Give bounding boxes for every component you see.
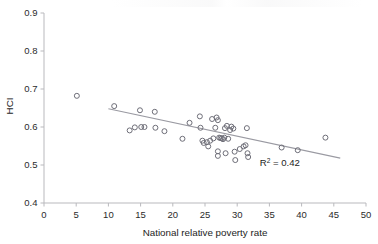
x-tick-label: 30: [232, 209, 243, 220]
data-point: [187, 120, 192, 125]
x-tick-label: 25: [200, 209, 211, 220]
data-point: [137, 108, 142, 113]
x-tick-label: 5: [74, 209, 79, 220]
x-axis-title: National relative poverty rate: [143, 227, 268, 238]
data-point: [112, 104, 117, 109]
x-tick-label: 50: [361, 209, 372, 220]
y-tick-labels: 0.40.50.60.70.80.9: [24, 7, 37, 208]
data-point: [180, 136, 185, 141]
y-tick-label: 0.6: [24, 121, 37, 132]
data-point: [74, 93, 79, 98]
data-point: [244, 126, 249, 131]
data-point: [197, 114, 202, 119]
x-tick-label: 35: [264, 209, 275, 220]
y-tick-label: 0.8: [24, 45, 37, 56]
x-tick-label: 0: [41, 209, 46, 220]
y-tick-label: 0.9: [24, 7, 37, 18]
data-point: [162, 129, 167, 134]
x-tick-labels: 05101520253035404550: [41, 209, 371, 220]
data-point: [127, 128, 132, 133]
data-point: [295, 148, 300, 153]
r-squared-annotation: R2 = 0.42: [260, 157, 300, 169]
data-point: [323, 135, 328, 140]
x-tick-label: 20: [168, 209, 179, 220]
x-tick-label: 45: [329, 209, 340, 220]
annotations-group: R2 = 0.42: [260, 157, 300, 169]
y-tick-label: 0.7: [24, 83, 37, 94]
x-tick-label: 15: [135, 209, 146, 220]
data-point: [223, 151, 228, 156]
data-points-group: [74, 93, 328, 162]
chart-canvas: 0.40.50.60.70.80.9 05101520253035404550 …: [0, 0, 378, 244]
data-point: [213, 125, 218, 130]
data-point: [153, 125, 158, 130]
data-point: [132, 125, 137, 130]
y-tick-label: 0.5: [24, 159, 37, 170]
x-tick-label: 10: [103, 209, 114, 220]
data-point: [232, 149, 237, 154]
data-point: [233, 158, 238, 163]
data-point: [142, 125, 147, 130]
y-tick-label: 0.4: [24, 197, 37, 208]
scatter-plot-figure: 0.40.50.60.70.80.9 05101520253035404550 …: [0, 0, 378, 244]
y-tick-marks: [41, 13, 45, 203]
x-tick-marks: [44, 203, 366, 207]
x-tick-label: 40: [296, 209, 307, 220]
y-axis-title: HCI: [4, 98, 15, 115]
data-point: [152, 109, 157, 114]
cropped-title-remnant: [112, 0, 362, 7]
axes-group: [44, 13, 366, 203]
